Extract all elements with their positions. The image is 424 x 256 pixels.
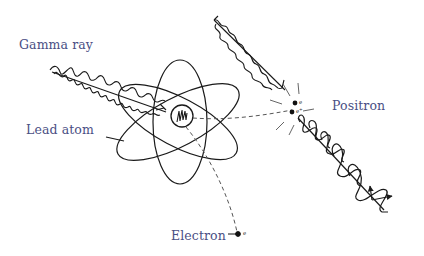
incoming-gamma-ray (50, 66, 166, 115)
electron-path (186, 127, 237, 232)
particle-paths (186, 110, 292, 232)
positron-label: Positron (332, 98, 385, 113)
lead-atom-label: Lead atom (26, 122, 94, 137)
positron-path (193, 110, 292, 119)
outgoing-gamma-ray-upper (214, 16, 285, 90)
electron-symbol: e (243, 229, 246, 237)
positron-symbol-2: e⁺ (296, 107, 303, 115)
nucleus (171, 105, 193, 127)
outgoing-gamma-ray-lower (298, 115, 392, 212)
electron-particle (228, 232, 240, 237)
gamma-ray-label: Gamma ray (19, 37, 93, 52)
positron-symbol-1: e (299, 98, 302, 106)
electron-label: Electron (171, 228, 226, 243)
